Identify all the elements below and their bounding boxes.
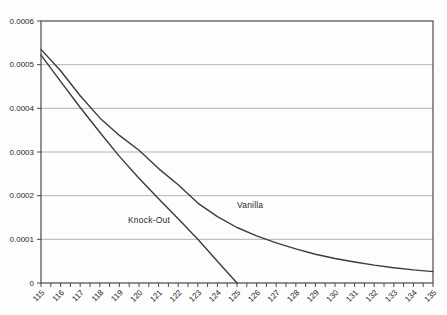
- x-axis-tick-label: 124: [207, 288, 223, 304]
- x-axis-tick-label: 129: [305, 288, 321, 304]
- chart-canvas: 00.00010.00020.00030.00040.00050.0006115…: [0, 0, 447, 315]
- x-axis-tick-label: 130: [325, 288, 341, 304]
- x-axis-tick-label: 120: [129, 288, 145, 304]
- chart: 00.00010.00020.00030.00040.00050.0006115…: [0, 0, 447, 315]
- x-axis-tick-label: 127: [266, 288, 282, 304]
- series-line-vanilla: [41, 49, 433, 271]
- x-axis-tick-label: 119: [109, 288, 125, 304]
- x-axis-tick-label: 128: [285, 288, 301, 304]
- x-axis-tick-label: 132: [364, 288, 380, 304]
- y-axis-tick-label: 0.0001: [10, 235, 35, 244]
- x-axis-tick-label: 135: [423, 288, 439, 304]
- x-axis-tick-label: 123: [187, 288, 203, 304]
- series-line-knock-out: [41, 55, 237, 283]
- x-axis-tick-label: 133: [383, 288, 399, 304]
- x-axis-tick-label: 131: [344, 288, 360, 304]
- series-label-vanilla: Vanilla: [237, 200, 263, 210]
- x-axis-tick-label: 118: [90, 288, 106, 304]
- y-axis-tick-label: 0.0004: [10, 104, 35, 113]
- series-label-knock-out: Knock-Out: [128, 215, 170, 225]
- x-axis-tick-label: 121: [148, 288, 164, 304]
- x-axis-tick-label: 134: [403, 288, 419, 304]
- x-axis-tick-label: 122: [168, 288, 184, 304]
- x-axis-tick-label: 125: [227, 288, 243, 304]
- y-axis-tick-label: 0.0005: [10, 60, 35, 69]
- x-axis-tick-label: 117: [70, 288, 86, 304]
- y-axis-tick-label: 0.0006: [10, 17, 35, 26]
- y-axis-tick-label: 0: [30, 279, 35, 288]
- y-axis-tick-label: 0.0003: [10, 148, 35, 157]
- x-axis-tick-label: 116: [51, 288, 67, 304]
- x-axis-tick-label: 126: [246, 288, 262, 304]
- x-axis-tick-label: 115: [31, 288, 47, 304]
- y-axis-tick-label: 0.0002: [10, 191, 35, 200]
